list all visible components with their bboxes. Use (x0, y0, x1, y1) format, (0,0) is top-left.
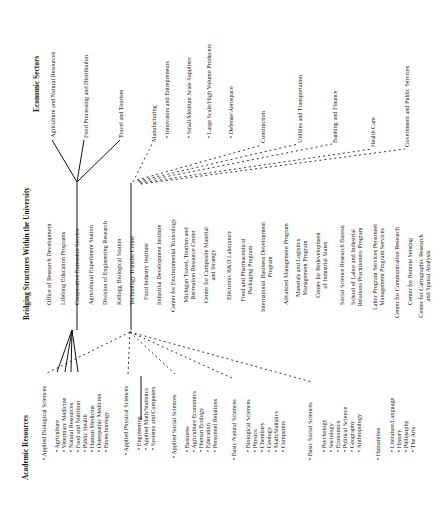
bridge-item: Industrial Development Institute (155, 225, 162, 305)
group-item: • Biotechnology (102, 412, 109, 452)
group-item: • Computers (279, 421, 286, 452)
academic-resources-title: Academic Resources (22, 415, 29, 480)
group-item: • Geology (265, 427, 272, 452)
group-item: • Education (204, 423, 211, 452)
group-item: • Economics (334, 421, 341, 452)
group-item: • Applied Math/Statistics (142, 388, 149, 450)
sector-small-suppliers: • Small/Medium Scale Suppliers (185, 57, 192, 138)
group-item: • Natural Resources (67, 403, 74, 452)
bridge-item: School of Labor and Industrial Relations… (350, 224, 363, 310)
bridge-item: Michigan Travel, Tourism and Recreation … (183, 225, 196, 305)
bridge-item: Electronic R&D Laboratory (225, 231, 232, 300)
bridge-item: Labor Program Services Personnel Managem… (372, 212, 385, 322)
group-item: • Systems and Computers (149, 386, 156, 450)
bridge-item: Center for Composite Material and Strate… (203, 225, 216, 305)
group-item: • Sociology (327, 423, 334, 452)
bridge-item: Center for Environmental Toxicology (169, 219, 176, 312)
group-label: • Humanities (374, 428, 381, 460)
group-item: • The Arts (409, 427, 416, 452)
economic-sectors-title: Economic Sectors (33, 56, 40, 112)
bridge-item: Technology Transfer Center (128, 236, 135, 305)
sector-health-care: Health Care (369, 117, 376, 147)
sector-travel-tourism: Travel and Tourism (117, 90, 124, 138)
group-label: • Basic Social Sciences (306, 402, 313, 460)
bridge-item: Center for Remote Sensing (406, 238, 413, 305)
bridge-item: Advanced Management Program (282, 223, 289, 305)
bridge-item: International Business Development Progr… (260, 219, 273, 315)
bridge-item: Social Science Research Bureau (338, 225, 345, 305)
group-item: • Human Ecology (197, 408, 204, 452)
group-item: • Geography (348, 421, 355, 452)
bridge-item: Division of Engineering Research (101, 221, 108, 305)
group-item: • Agriculture Economics (190, 391, 197, 452)
sector-government: Government and Public Services (403, 66, 410, 147)
bridge-item: Agricultural Experiment Station (87, 225, 94, 305)
group-item: • Human Medicine (88, 405, 95, 452)
sector-agriculture: Agriculture and Natural Resources (49, 52, 56, 138)
sector-innovators: • Innovators and Entrepreneurs (163, 61, 170, 138)
group-item: • Food and Nutrition (74, 401, 81, 452)
sector-banking: Banking and Finance (331, 90, 338, 143)
group-item: • History (395, 430, 402, 452)
group-item: • Osteopathic Medicine (95, 394, 102, 452)
group-item: • Psychology (320, 419, 327, 452)
bridge-item: Kellogg Biological Station (115, 239, 122, 305)
group-item: • Biological Sciences (244, 399, 251, 452)
bridge-item: Food and Pharmaceutical Packaging Progra… (240, 235, 253, 305)
group-item: • Math/Statistics (272, 411, 279, 452)
sector-food-processing: Food Processing and Distribution (82, 55, 89, 138)
group-item: • Veterinary Medicine (60, 398, 67, 452)
bridge-item: Center for Cartographic Research and Spa… (418, 234, 431, 318)
bridge-item: Office of Research Development (45, 224, 52, 306)
group-item: • Engineering (135, 416, 142, 450)
bridge-item: Center for Communication Research (393, 227, 400, 318)
bridge-item: Food Industry Institute (142, 243, 149, 300)
sector-manufacturing: Manufacturing (150, 105, 157, 142)
group-item: • Agriculture (53, 420, 60, 452)
sector-construction: Construction (259, 111, 266, 143)
group-item: • Anthropology (355, 414, 362, 452)
sector-defense: • Defense/Aerospace (227, 86, 234, 138)
bridge-item: Cooperative Extension Service (73, 228, 80, 305)
bridging-structures-title: Bridging Structures Within the Universit… (23, 187, 30, 320)
group-item: • Political Science (341, 407, 348, 452)
group-item: • Personnel Relations (211, 399, 218, 452)
sector-utilities: Utilities and Transportation (296, 75, 303, 143)
bridge-item: Lifelong Education Programs (59, 232, 66, 305)
bridge-item: Materials and Logistics Management Progr… (295, 236, 308, 300)
group-label: • Applied Biological Sciences (40, 386, 47, 460)
group-item: • Business (183, 426, 190, 452)
group-item: • Public Health (81, 414, 88, 452)
group-item: • Literature/Language (388, 398, 395, 452)
group-label: • Basic Natural Sciences (230, 399, 237, 460)
group-item: • Philosophy (402, 420, 409, 452)
group-label: • Applied Physical Sciences (122, 386, 129, 455)
group-item: • Chemistry (258, 423, 265, 453)
sector-large-producers: • Large Scale/High Volume Producers (205, 44, 212, 138)
group-label: • Applied Social Sciences (170, 394, 177, 458)
group-item: • Physics (251, 429, 258, 452)
bridge-item: Center for Redevelopment of Industrial S… (315, 230, 328, 300)
